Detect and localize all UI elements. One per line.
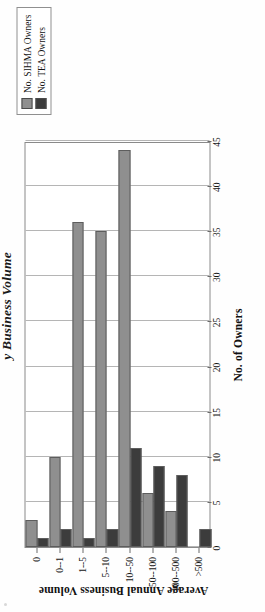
bar (176, 475, 187, 547)
bar (25, 520, 36, 547)
value-tick-mark (207, 412, 211, 413)
value-tick-label: 35 (211, 227, 221, 237)
category-tick-mark (82, 548, 83, 553)
legend-label: No. TEA Owners (36, 27, 46, 93)
value-tick-label: 40 (211, 182, 221, 192)
bar (49, 457, 60, 547)
value-tick-label: 20 (211, 363, 221, 373)
bar (130, 448, 141, 547)
bar (37, 538, 48, 547)
figure-canvas: y Business Volume 051015202530354045 No.… (0, 0, 265, 612)
legend-label: No. SIHMA Owners (22, 15, 32, 93)
value-tick-label: 15 (211, 408, 221, 418)
gridline (25, 140, 209, 141)
bar (142, 493, 153, 547)
bar-chart-figure: y Business Volume 051015202530354045 No.… (0, 0, 265, 612)
category-tick-mark (36, 548, 37, 553)
value-tick-label: 30 (211, 273, 221, 283)
figure-title: y Business Volume (0, 0, 14, 612)
category-tick-label: >500 (193, 557, 203, 577)
category-tick-label: 50--100 (147, 557, 157, 587)
legend-item: No. SIHMA Owners (21, 15, 32, 109)
category-tick-mark (175, 548, 176, 553)
category-axis-ticks: 00--11--55--1010--5050--100100--500>500 (24, 548, 210, 612)
bar-group (141, 143, 164, 547)
category-axis-title: Average Annual Business Volume (30, 585, 216, 597)
value-tick-label: 0 (211, 546, 221, 551)
bar (72, 222, 83, 547)
bar (165, 511, 176, 547)
bar-group (48, 143, 71, 547)
scan-artifact (4, 603, 7, 606)
bar-group (72, 143, 95, 547)
category-tick-label: 0--1 (54, 557, 64, 573)
bar (83, 538, 94, 547)
value-tick-mark (207, 367, 211, 368)
category-tick-label: 1--5 (77, 557, 87, 573)
rotated-figure-wrapper: y Business Volume 051015202530354045 No.… (0, 0, 265, 612)
bar-group (25, 143, 48, 547)
bar-group (188, 143, 211, 547)
category-tick-mark (198, 548, 199, 553)
value-tick-mark (207, 457, 211, 458)
bar-group (95, 143, 118, 547)
plot-area (24, 142, 210, 548)
bar (153, 466, 164, 547)
category-tick-mark (59, 548, 60, 553)
category-tick-mark (152, 548, 153, 553)
bar (118, 150, 129, 547)
value-tick-label: 10 (211, 453, 221, 463)
bar-group (165, 143, 188, 547)
bar-group (118, 143, 141, 547)
category-tick-label: 5--10 (100, 557, 110, 578)
value-tick-mark (207, 502, 211, 503)
category-tick-mark (129, 548, 130, 553)
legend-swatch (21, 98, 32, 109)
value-tick-mark (207, 141, 211, 142)
value-tick-label: 5 (211, 501, 221, 506)
category-tick-mark (105, 548, 106, 553)
value-tick-label: 25 (211, 318, 221, 328)
value-tick-mark (207, 321, 211, 322)
value-tick-mark (207, 186, 211, 187)
bar (106, 529, 117, 547)
legend-item: No. TEA Owners (35, 15, 46, 109)
value-tick-mark (207, 276, 211, 277)
bar (60, 529, 71, 547)
value-tick-mark (207, 231, 211, 232)
category-tick-label: 10--50 (124, 557, 134, 582)
value-tick-label: 45 (211, 137, 221, 147)
value-axis-title: No. of Owners (231, 142, 243, 548)
category-tick-label: 0 (31, 557, 41, 562)
value-axis-ticks: 051015202530354045 (211, 142, 233, 548)
chart-legend: No. SIHMA OwnersNo. TEA Owners (16, 7, 51, 115)
bar (95, 231, 106, 547)
bar (199, 529, 210, 547)
bar-series-container (25, 143, 209, 547)
legend-swatch (35, 98, 46, 109)
